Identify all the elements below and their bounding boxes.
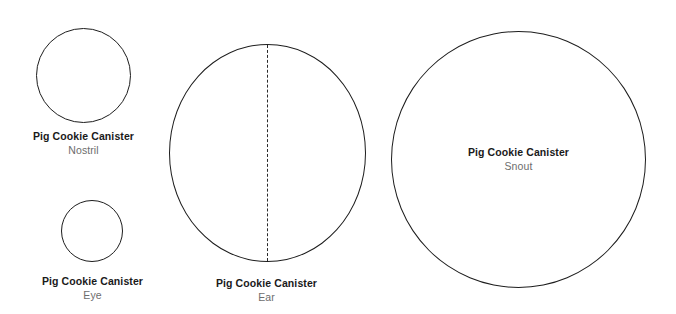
piece-label-nostril: Pig Cookie Canister Nostril bbox=[13, 130, 154, 157]
piece-label-snout: Pig Cookie Canister Snout bbox=[448, 146, 589, 173]
piece-subtitle-ear: Ear bbox=[196, 291, 337, 304]
circle-outline-nostril bbox=[36, 28, 131, 123]
piece-label-ear: Pig Cookie Canister Ear bbox=[196, 277, 337, 304]
circle-outline-eye bbox=[61, 200, 123, 262]
piece-title-nostril: Pig Cookie Canister bbox=[13, 130, 154, 143]
piece-subtitle-eye: Eye bbox=[22, 289, 163, 302]
piece-title-eye: Pig Cookie Canister bbox=[22, 275, 163, 288]
piece-label-eye: Pig Cookie Canister Eye bbox=[22, 275, 163, 302]
fold-line-ear bbox=[267, 45, 268, 261]
piece-subtitle-snout: Snout bbox=[448, 160, 589, 173]
piece-title-snout: Pig Cookie Canister bbox=[448, 146, 589, 159]
piece-title-ear: Pig Cookie Canister bbox=[196, 277, 337, 290]
pattern-sheet: Pig Cookie Canister Nostril Pig Cookie C… bbox=[0, 0, 676, 314]
piece-subtitle-nostril: Nostril bbox=[13, 144, 154, 157]
